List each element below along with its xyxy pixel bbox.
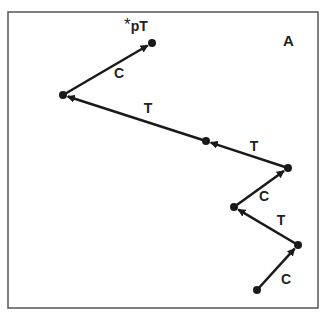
transition-label: T xyxy=(277,212,286,228)
state-node xyxy=(202,137,210,145)
state-node xyxy=(59,91,67,99)
panel-frame xyxy=(8,12,318,308)
state-node xyxy=(284,164,292,172)
state-node xyxy=(253,286,261,294)
transition-label: T xyxy=(250,138,259,154)
start-label: *pT xyxy=(124,15,148,34)
transition-label: C xyxy=(114,65,124,81)
state-node xyxy=(148,39,156,47)
transition-arrow xyxy=(68,97,206,141)
transition-arrow xyxy=(63,46,148,95)
state-node xyxy=(230,203,238,211)
transition-arrows xyxy=(63,46,298,290)
transition-arrow xyxy=(238,210,298,245)
panel-label: A xyxy=(283,32,294,49)
transition-label: T xyxy=(144,100,153,116)
transition-label: C xyxy=(281,271,291,287)
state-node xyxy=(294,241,302,249)
transition-label: C xyxy=(259,188,269,204)
transition-labels: CTCTTC xyxy=(114,65,291,287)
pathway-diagram: A *pT CTCTTC xyxy=(0,0,324,323)
